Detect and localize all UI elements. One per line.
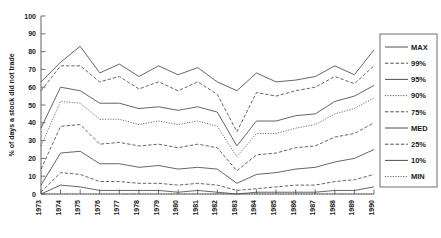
y-tick-label: 100 xyxy=(24,13,36,20)
x-tick-label: 1977 xyxy=(113,200,120,216)
x-tick-label: 1980 xyxy=(172,200,179,216)
legend-label-max: MAX xyxy=(411,43,428,52)
y-tick-label: 50 xyxy=(28,102,36,109)
y-tick-label: 10 xyxy=(28,173,36,180)
legend-label-90pct: 90% xyxy=(411,91,426,100)
x-tick-label: 1986 xyxy=(290,200,297,216)
legend-label-95pct: 95% xyxy=(411,75,426,84)
x-tick-label: 1984 xyxy=(250,200,257,216)
x-tick-label: 1974 xyxy=(55,200,62,216)
x-tick-label: 1989 xyxy=(348,200,355,216)
legend-label-99pct: 99% xyxy=(411,59,426,68)
legend-border xyxy=(380,34,437,187)
x-tick-label: 1979 xyxy=(153,200,160,216)
y-tick-label: 70 xyxy=(28,66,36,73)
x-tick-label: 1982 xyxy=(211,200,218,216)
y-axis-title-label: % of days a stock did not trade xyxy=(8,53,16,156)
x-tick-label: 1985 xyxy=(270,200,277,216)
y-tick-label: 20 xyxy=(28,155,36,162)
x-tick-label: 1981 xyxy=(192,200,199,216)
y-tick-label: 60 xyxy=(28,84,36,91)
legend-items: MAX99%95%90%75%MED25%10%MIN xyxy=(385,43,428,182)
x-tick-label: 1983 xyxy=(231,200,238,216)
x-tick-label: 1988 xyxy=(329,200,336,216)
legend-label-75pct: 75% xyxy=(411,108,426,117)
x-tick-label: 1976 xyxy=(94,200,101,216)
x-tick-label: 1990 xyxy=(368,200,375,216)
legend-label-25pct: 25% xyxy=(411,140,426,149)
y-axis-title: % of days a stock did not trade xyxy=(8,53,16,156)
y-tick-label: 90 xyxy=(28,30,36,37)
y-tick-label: 30 xyxy=(28,137,36,144)
y-tick-label: 40 xyxy=(28,119,36,126)
x-tick-label: 1978 xyxy=(133,200,140,216)
y-tick-label: 0 xyxy=(32,191,36,198)
line-chart: % of days a stock did not trade 01020304… xyxy=(0,0,441,238)
x-tick-label: 1987 xyxy=(309,200,316,216)
x-tick-label: 1975 xyxy=(74,200,81,216)
legend-label-med: MED xyxy=(411,124,428,133)
legend-label-min: MIN xyxy=(411,172,425,181)
chart-figure: % of days a stock did not trade 01020304… xyxy=(0,0,441,238)
legend-label-10pct: 10% xyxy=(411,156,426,165)
x-tick-label: 1973 xyxy=(35,200,42,216)
y-tick-label: 80 xyxy=(28,48,36,55)
chart-legend: MAX99%95%90%75%MED25%10%MIN xyxy=(380,34,437,187)
